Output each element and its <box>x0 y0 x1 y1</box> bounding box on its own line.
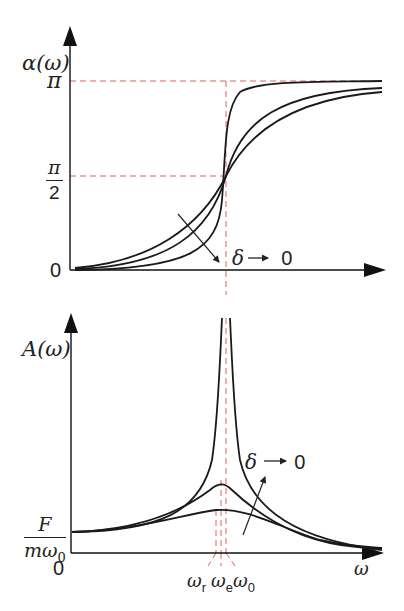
phase-tick-zero: 0 <box>50 260 61 280</box>
freq-label-omega-e-sym: ω <box>211 570 226 591</box>
freq-label-omega-0-sub: 0 <box>248 580 255 595</box>
amplitude-delta-symbol: δ <box>245 450 257 474</box>
amplitude-curve-medium-damping <box>72 484 382 549</box>
amplitude-y-arrow-icon <box>64 313 78 333</box>
amplitude-delta-zero: 0 <box>294 451 305 473</box>
amplitude-delta-arrow <box>243 477 265 535</box>
phase-delta-arrow <box>178 214 219 262</box>
phase-delta-label: δ 0 <box>232 248 292 268</box>
amplitude-y-label-text: A(ω) <box>22 337 71 361</box>
freq-label-omega-r-sub: r <box>202 580 206 595</box>
phase-tick-half-pi: π 2 <box>46 156 63 204</box>
amplitude-y-label: A(ω) <box>22 338 71 360</box>
phase-x-arrow-icon <box>364 263 386 277</box>
phase-y-label-text: α(ω) <box>22 51 70 75</box>
phase-delta-zero: 0 <box>281 247 292 269</box>
phase-tick-half-pi-denominator: 2 <box>46 181 63 204</box>
phase-y-label: α(ω) <box>22 52 70 74</box>
phase-guides <box>70 81 382 295</box>
phase-delta-symbol: δ <box>232 246 244 270</box>
amplitude-tick-numerator: F <box>24 513 66 538</box>
freq-label-omega-r-sym: ω <box>187 570 202 591</box>
amplitude-curve-small-damping <box>72 318 382 550</box>
freq-label-omega-0-sym: ω <box>233 570 248 591</box>
phase-tick-half-pi-numerator: π <box>46 156 63 181</box>
amplitude-tick-f-over-m-omega0: F mω0 <box>24 513 66 561</box>
amplitude-axes <box>71 325 372 553</box>
freq-label-omega-e-sub: e <box>226 580 233 595</box>
freq-label-omega-e: ωe <box>211 571 233 591</box>
freq-labels: ωr ωeω0 <box>187 572 255 590</box>
phase-y-arrow-icon <box>63 26 77 46</box>
freq-label-omega-0: ω0 <box>233 571 255 591</box>
amplitude-tick-zero: 0 <box>53 558 64 578</box>
phase-tick-pi: π <box>47 70 61 92</box>
amplitude-x-label: ω <box>354 560 369 578</box>
freq-label-omega-r: ωr <box>187 571 206 591</box>
phase-axes <box>70 38 378 270</box>
amplitude-curves <box>72 318 382 550</box>
amplitude-delta-label: δ 0 <box>245 452 305 472</box>
phase-curve-medium-damping <box>75 88 382 269</box>
